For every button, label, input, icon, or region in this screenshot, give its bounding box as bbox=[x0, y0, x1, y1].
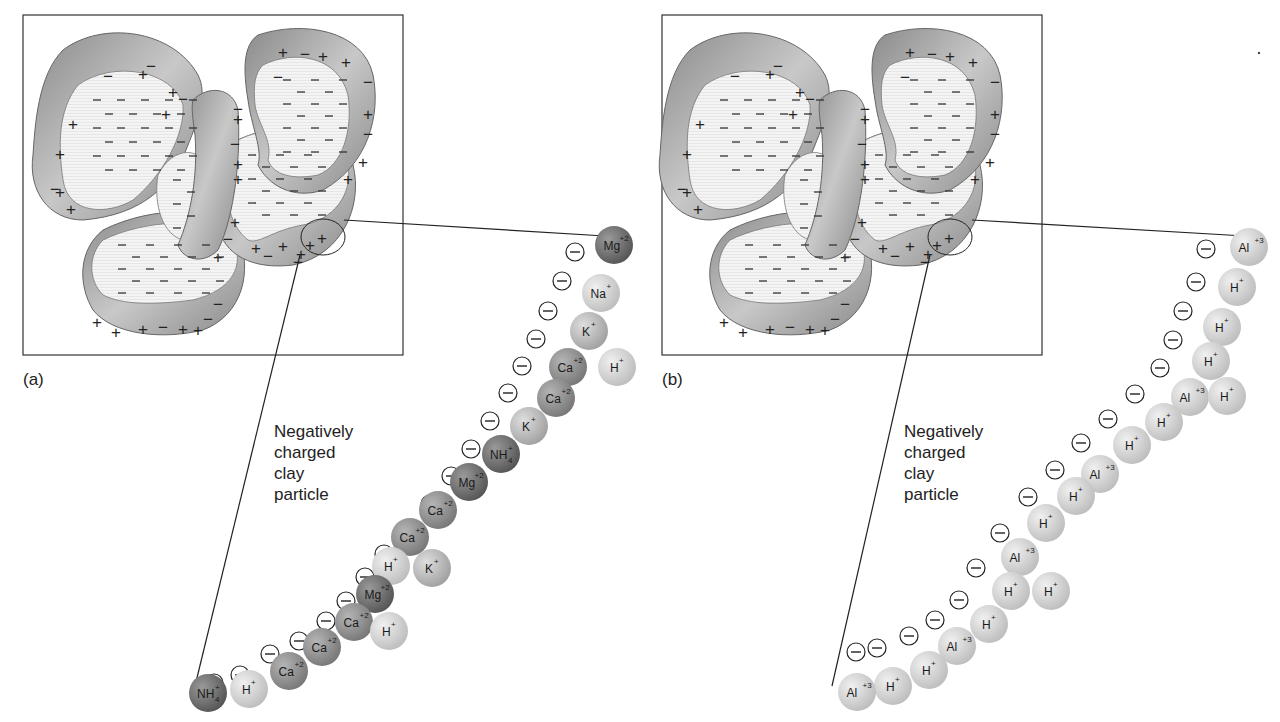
ion-na: Na+ bbox=[582, 274, 620, 312]
ion-h: H+ bbox=[1057, 477, 1095, 515]
minus-charge: − bbox=[805, 90, 815, 109]
ion-h: H+ bbox=[1113, 426, 1151, 464]
negative-charge-site bbox=[553, 272, 571, 290]
minus-charge: − bbox=[927, 45, 937, 64]
panel-b-clay-cluster bbox=[659, 28, 1002, 334]
plus-charge: + bbox=[788, 105, 798, 124]
plus-charge: + bbox=[805, 320, 815, 339]
minus-charge: − bbox=[990, 125, 1000, 144]
ion-charge: +2 bbox=[360, 611, 370, 620]
negative-charge-site bbox=[1151, 359, 1169, 377]
panel-a-clay-cluster bbox=[32, 28, 375, 334]
plus-charge: + bbox=[111, 323, 121, 342]
minus-charge: − bbox=[830, 310, 840, 329]
ion-symbol: H bbox=[384, 560, 393, 574]
ion-symbol: Mg bbox=[604, 239, 621, 253]
ion-symbol: Ca bbox=[558, 361, 574, 375]
ion-charge: +2 bbox=[574, 356, 584, 365]
ion-charge: +2 bbox=[475, 471, 485, 480]
negative-charge-site bbox=[1099, 410, 1117, 428]
ion-symbol: NH bbox=[197, 687, 214, 701]
plus-charge: + bbox=[695, 115, 705, 134]
negative-charge-site bbox=[462, 440, 480, 458]
ion-charge: + bbox=[607, 282, 612, 291]
ion-charge: + bbox=[931, 659, 936, 668]
ion-charge: +3 bbox=[1255, 236, 1265, 245]
ion-h: H+ bbox=[1192, 342, 1230, 380]
plus-charge: + bbox=[168, 83, 178, 102]
ion-symbol: Ca bbox=[400, 531, 416, 545]
plus-charge: + bbox=[138, 320, 148, 339]
panel-b-ion-layer: Al+3H+H+H+Al+3H+H+H+Al+3H+H+Al+3H+H+H+Al… bbox=[838, 228, 1268, 711]
minus-charge: − bbox=[890, 247, 900, 266]
ion-h: H+ bbox=[1145, 403, 1183, 441]
ion-charge: + bbox=[391, 620, 396, 629]
ion-symbol: H bbox=[1044, 585, 1053, 599]
negative-charge-site bbox=[926, 611, 944, 629]
ion-mg: Mg+2 bbox=[450, 463, 488, 501]
ion-symbol: H bbox=[1069, 490, 1078, 504]
ion-charge: +2 bbox=[562, 387, 572, 396]
minus-charge: − bbox=[103, 67, 113, 86]
ion-h: H+ bbox=[1027, 504, 1065, 542]
plus-charge: + bbox=[738, 323, 748, 342]
minus-charge: − bbox=[223, 230, 233, 249]
ion-charge: +3 bbox=[1106, 463, 1116, 472]
negative-charge-site bbox=[900, 627, 918, 645]
ion-symbol: H bbox=[1230, 281, 1239, 295]
minus-charge: − bbox=[146, 57, 156, 76]
ion-symbol: H bbox=[922, 664, 931, 678]
ion-ca: Ca+2 bbox=[537, 379, 575, 417]
ion-symbol: H bbox=[982, 618, 991, 632]
ion-symbol: H bbox=[1204, 355, 1213, 369]
zoom-line-top bbox=[972, 220, 1245, 236]
plus-charge: + bbox=[765, 320, 775, 339]
zoom-line-top bbox=[344, 220, 605, 236]
plus-charge: + bbox=[278, 237, 288, 256]
plus-charge: + bbox=[233, 170, 243, 189]
ion-mg: Mg+2 bbox=[595, 226, 633, 264]
ion-symbol: H bbox=[382, 625, 391, 639]
minus-charge: − bbox=[785, 318, 795, 337]
plus-charge: + bbox=[363, 105, 373, 124]
negative-charge-site bbox=[513, 357, 531, 375]
ion-symbol: Al bbox=[1010, 551, 1021, 565]
ion-charge: +3 bbox=[1026, 546, 1036, 555]
ion-h: H+ bbox=[874, 667, 912, 705]
minus-charge: − bbox=[300, 45, 310, 64]
ion-charge: +2 bbox=[381, 583, 391, 592]
ion-symbol: K bbox=[522, 420, 530, 434]
plus-charge: + bbox=[341, 53, 351, 72]
ion-charge: + bbox=[1048, 512, 1053, 521]
ion-symbol: H bbox=[1220, 390, 1229, 404]
panel-a-label: (a) bbox=[23, 370, 44, 390]
ion-charge: + bbox=[895, 675, 900, 684]
ion-charge: + bbox=[1229, 385, 1234, 394]
minus-charge: − bbox=[860, 100, 870, 119]
svg-text:4: 4 bbox=[508, 456, 513, 465]
ion-h: H+ bbox=[370, 612, 408, 650]
plus-charge: + bbox=[278, 43, 288, 62]
ion-symbol: Ca bbox=[312, 641, 328, 655]
minus-charge: − bbox=[263, 247, 273, 266]
minus-charge: − bbox=[230, 135, 240, 154]
negative-charge-site bbox=[847, 643, 865, 661]
ion-h: H+ bbox=[970, 605, 1008, 643]
ion-ca: Ca+2 bbox=[419, 491, 457, 529]
panel-a-ion-layer: Mg+2Na+K+Ca+2H+Ca+2K+NH4+Mg+2Ca+2Ca+2H+K… bbox=[189, 226, 636, 712]
minus-charge: − bbox=[990, 73, 1000, 92]
ion-symbol: H bbox=[610, 361, 619, 375]
panel-a: ++++++++++++++++++++++++++++−−−−−−−−−−−−… bbox=[23, 15, 636, 712]
minus-charge: − bbox=[233, 100, 243, 119]
plus-charge: + bbox=[68, 115, 78, 134]
ion-symbol: Ca bbox=[344, 616, 360, 630]
plus-charge: + bbox=[92, 313, 102, 332]
svg-text:4: 4 bbox=[215, 695, 220, 704]
plus-charge: + bbox=[55, 145, 65, 164]
plus-charge: + bbox=[178, 320, 188, 339]
plus-charge: + bbox=[944, 229, 954, 248]
negative-charge-site bbox=[1046, 461, 1064, 479]
panel-a-caption: Negatively charged clay particle bbox=[274, 421, 353, 505]
ion-ca: Ca+2 bbox=[303, 628, 341, 666]
plus-charge: + bbox=[682, 145, 692, 164]
